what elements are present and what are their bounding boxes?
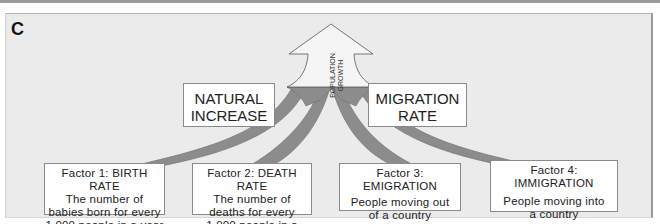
factor-description: People moving into a country [491, 195, 617, 221]
factor-birth-rate-box: Factor 1: BIRTH RATE The number of babie… [44, 163, 165, 215]
factor-title: Factor 1: BIRTH RATE [45, 167, 164, 193]
factor-description: People moving out of a country [340, 196, 460, 222]
factor-title: Factor 4: IMMIGRATION [491, 164, 617, 190]
factor-description: The number of deaths for every 1,000 peo… [193, 193, 311, 224]
factor-title: Factor 3: EMIGRATION [340, 167, 460, 193]
population-growth-label: POPULATION GROWTH [329, 46, 344, 106]
natural-increase-box: NATURAL INCREASE [183, 83, 275, 127]
migration-rate-box: MIGRATION RATE [368, 83, 467, 127]
factor-description: The number of babies born for every 1,00… [45, 193, 164, 224]
factor-immigration-box: Factor 4: IMMIGRATION People moving into… [490, 160, 618, 212]
factor-emigration-box: Factor 3: EMIGRATION People moving out o… [339, 163, 461, 211]
factor-title: Factor 2: DEATH RATE [193, 167, 311, 193]
factor-death-rate-box: Factor 2: DEATH RATE The number of death… [192, 163, 312, 215]
